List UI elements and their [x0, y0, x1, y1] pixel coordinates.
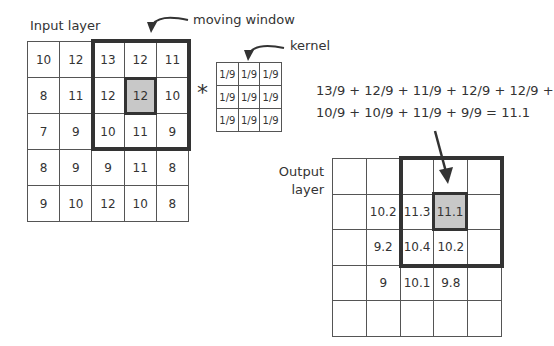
- input-cell: 10: [60, 186, 92, 222]
- input-cell: 11: [60, 78, 92, 114]
- input-cell: 10: [92, 114, 124, 150]
- moving-window-arrow-icon: [147, 17, 188, 33]
- input-cell: 11: [157, 42, 189, 78]
- input-cell: 9: [28, 186, 60, 222]
- output-cell: 9.8: [434, 266, 468, 302]
- output-cell: 9.2: [367, 230, 401, 266]
- output-cell: [333, 159, 367, 195]
- input-cell: 8: [157, 150, 189, 186]
- output-cell: [434, 301, 468, 337]
- formula-line-2: 10/9 + 10/9 + 11/9 + 9/9 = 11.1: [316, 102, 554, 124]
- input-cell: 12: [92, 186, 124, 222]
- input-layer-grid: 10 12 13 12 11 8 11 12 12 10 7 9 10 11 9…: [27, 41, 189, 222]
- input-cell: 9: [60, 150, 92, 186]
- input-cell: 8: [157, 186, 189, 222]
- input-center-cell: 12: [124, 77, 157, 115]
- output-cell: [333, 230, 367, 266]
- output-cell: [333, 195, 367, 231]
- input-cell: 8: [28, 78, 60, 114]
- output-cell: [468, 230, 502, 266]
- moving-window-label: moving window: [193, 12, 295, 27]
- output-cell: 10.4: [401, 230, 435, 266]
- output-cell: [468, 266, 502, 302]
- output-layer-label-line1: Output: [268, 163, 324, 181]
- input-cell: 12: [125, 42, 157, 78]
- kernel-cell: 1/9: [260, 63, 282, 86]
- output-cell: 10.2: [367, 195, 401, 231]
- input-cell: 9: [60, 114, 92, 150]
- input-cell: 12: [92, 78, 124, 114]
- convolution-operator: *: [197, 80, 208, 105]
- kernel-cell: 1/9: [239, 86, 261, 109]
- output-cell: 10.2: [434, 230, 468, 266]
- kernel-cell: 1/9: [217, 63, 239, 86]
- kernel-cell: 1/9: [260, 86, 282, 109]
- kernel-label: kernel: [290, 38, 330, 53]
- output-cell: [468, 301, 502, 337]
- calculation-formula: 13/9 + 12/9 + 11/9 + 12/9 + 12/9 + 10/9 …: [316, 80, 554, 124]
- output-cell: [434, 159, 468, 195]
- input-cell: 11: [125, 150, 157, 186]
- input-cell: 12: [60, 42, 92, 78]
- kernel-arrow-icon: [244, 46, 284, 61]
- input-cell: 9: [92, 150, 124, 186]
- output-cell: [333, 301, 367, 337]
- input-cell: 13: [92, 42, 124, 78]
- output-cell: 11.3: [401, 195, 435, 231]
- output-center-cell: 11.1: [432, 192, 468, 231]
- kernel-cell: 1/9: [239, 109, 261, 132]
- kernel-cell: 1/9: [217, 86, 239, 109]
- output-cell: [468, 159, 502, 195]
- input-cell: 8: [28, 150, 60, 186]
- input-cell: 10: [28, 42, 60, 78]
- output-cell: [401, 301, 435, 337]
- kernel-cell: 1/9: [260, 109, 282, 132]
- output-layer-label-line2: layer: [268, 181, 324, 199]
- output-cell: [333, 266, 367, 302]
- formula-line-1: 13/9 + 12/9 + 11/9 + 12/9 + 12/9 +: [316, 80, 554, 102]
- output-cell: [367, 301, 401, 337]
- input-layer-label: Input layer: [30, 18, 100, 33]
- output-cell: [468, 195, 502, 231]
- input-cell: 10: [125, 186, 157, 222]
- kernel-grid: 1/9 1/9 1/9 1/9 1/9 1/9 1/9 1/9 1/9: [216, 62, 282, 132]
- input-cell: 7: [28, 114, 60, 150]
- output-layer-label: Output layer: [268, 163, 324, 199]
- kernel-cell: 1/9: [239, 63, 261, 86]
- output-cell: 9: [367, 266, 401, 302]
- input-cell: 10: [157, 78, 189, 114]
- output-layer-grid: 10.2 11.3 11.1 9.2 10.4 10.2 9 10.1 9.8: [332, 158, 502, 337]
- kernel-cell: 1/9: [217, 109, 239, 132]
- input-cell: 11: [125, 114, 157, 150]
- output-cell: [401, 159, 435, 195]
- output-cell: [367, 159, 401, 195]
- input-cell: 9: [157, 114, 189, 150]
- output-cell: 10.1: [401, 266, 435, 302]
